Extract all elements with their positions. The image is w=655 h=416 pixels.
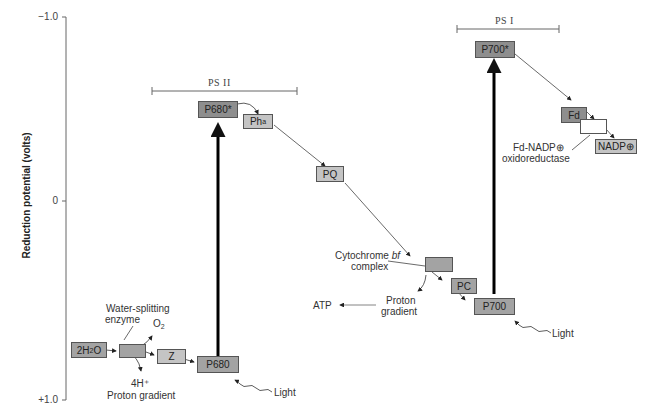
label-oxidoreductase: oxidoreductase — [502, 153, 570, 164]
label-o2: O2 — [153, 318, 165, 332]
box-pha: Pha — [243, 114, 273, 129]
label-light-ps2: Light — [274, 387, 296, 398]
box-nadp: NADP⊕ — [595, 139, 637, 154]
box-water-splitting-enzyme — [119, 344, 146, 358]
box-p680: P680 — [197, 356, 239, 373]
label-atp: ATP — [313, 300, 332, 311]
label-complex: complex — [351, 261, 388, 272]
box-2h2o: 2H2O — [71, 342, 107, 358]
axis-tick-minus-1: −1.0 — [18, 11, 58, 22]
box-p700: P700 — [474, 298, 515, 315]
box-z: Z — [157, 349, 186, 364]
axis-tick-plus-1: +1.0 — [18, 394, 58, 405]
label-enzyme: enzyme — [105, 314, 140, 325]
box-pq: PQ — [316, 166, 344, 182]
group-label-ps1: PS I — [495, 15, 514, 26]
box-p680-star: P680* — [198, 101, 238, 118]
label-water-splitting: Water-splitting — [106, 303, 170, 314]
box-pc: PC — [451, 278, 477, 294]
group-label-ps2: PS II — [208, 77, 231, 88]
axis-label: Reduction potential (volts) — [21, 121, 32, 271]
box-fd-nadp-oxidoreductase — [580, 119, 607, 134]
label-proton-gradient-ps2: Proton gradient — [107, 390, 175, 401]
box-cytochrome-bf — [425, 257, 453, 272]
label-4h-plus: 4H⁺ — [131, 378, 149, 389]
label-proton-gradient-cyt-2: gradient — [381, 306, 417, 317]
label-fd-nadp: Fd-NADP⊕ — [513, 142, 564, 153]
label-light-ps1: Light — [552, 328, 574, 339]
z-scheme-diagram: −1.0 0 +1.0 Reduction potential (volts) … — [0, 0, 655, 416]
label-proton-gradient-cyt-1: Proton — [386, 295, 415, 306]
label-cytochrome-bf: Cytochrome bf — [335, 250, 400, 261]
box-p700-star: P700* — [475, 41, 515, 58]
